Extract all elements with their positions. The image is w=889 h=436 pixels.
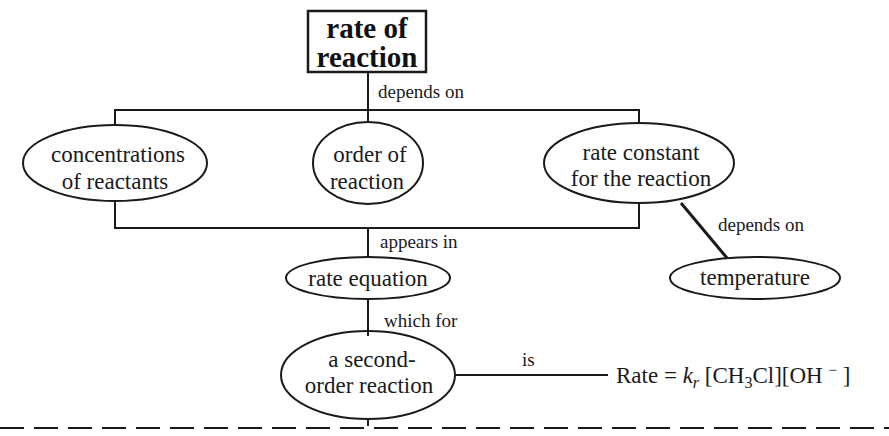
- expression-charge: −: [828, 362, 836, 378]
- expression-end: ]: [837, 363, 850, 388]
- node-rate-equation-label: rate equation: [308, 266, 428, 291]
- link-label-temperature-depends-on: depends on: [718, 214, 805, 235]
- node-second-order-line2: order reaction: [305, 373, 434, 398]
- rate-expression: Rate = kr [CH3Cl][OH − ]: [616, 362, 850, 391]
- node-concentrations-line2: of reactants: [62, 169, 169, 194]
- node-order-line1: order of: [333, 142, 407, 167]
- link-label-appears-in: appears in: [380, 231, 458, 252]
- node-rate-constant-line2: for the reaction: [571, 166, 712, 191]
- title-line2: reaction: [317, 41, 418, 73]
- node-concentrations-line1: concentrations: [51, 142, 185, 167]
- expression-prefix: Rate =: [616, 363, 683, 388]
- link-label-which-for: which for: [384, 310, 458, 331]
- title-line1: rate of: [326, 12, 408, 44]
- node-order-line2: reaction: [330, 169, 405, 194]
- link-label-is: is: [522, 349, 535, 370]
- concept-map: rate of reaction depends on appears in d…: [0, 0, 889, 436]
- node-second-order-line1: a second-: [328, 347, 416, 372]
- link-label-depends-on: depends on: [378, 81, 465, 102]
- node-temperature-label: temperature: [700, 265, 810, 290]
- expression-conc1-sub: 3: [744, 374, 752, 391]
- expression-conc1-close: Cl][OH: [752, 363, 828, 388]
- expression-conc1-open: [CH: [699, 363, 744, 388]
- node-rate-constant-line1: rate constant: [583, 140, 700, 165]
